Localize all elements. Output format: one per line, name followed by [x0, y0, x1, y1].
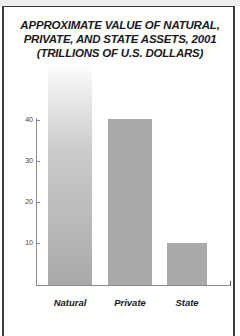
y-tick-10: [36, 243, 40, 244]
bar-state: [167, 243, 207, 285]
y-tick-label-20: 20: [14, 198, 33, 206]
chart-title: APPROXIMATE VALUE OF NATURAL, PRIVATE, A…: [0, 18, 240, 60]
title-line-2: PRIVATE, AND STATE ASSETS, 2001: [0, 32, 240, 46]
bar-natural: [48, 60, 92, 285]
y-tick-label-10: 10: [14, 239, 33, 247]
y-tick-40: [36, 120, 40, 121]
bar-private: [108, 119, 152, 285]
title-line-1: APPROXIMATE VALUE OF NATURAL,: [0, 18, 240, 32]
category-label-natural: Natural: [40, 297, 100, 308]
y-tick-label-40: 40: [14, 116, 33, 124]
y-tick-20: [36, 202, 40, 203]
category-label-private: Private: [100, 297, 160, 308]
category-label-state: State: [157, 297, 217, 308]
y-tick-30: [36, 161, 40, 162]
title-line-3: (TRILLIONS OF U.S. DOLLARS): [0, 46, 240, 60]
x-axis-end-tick: [230, 281, 231, 286]
x-axis: [36, 285, 231, 286]
y-tick-label-30: 30: [14, 157, 33, 165]
